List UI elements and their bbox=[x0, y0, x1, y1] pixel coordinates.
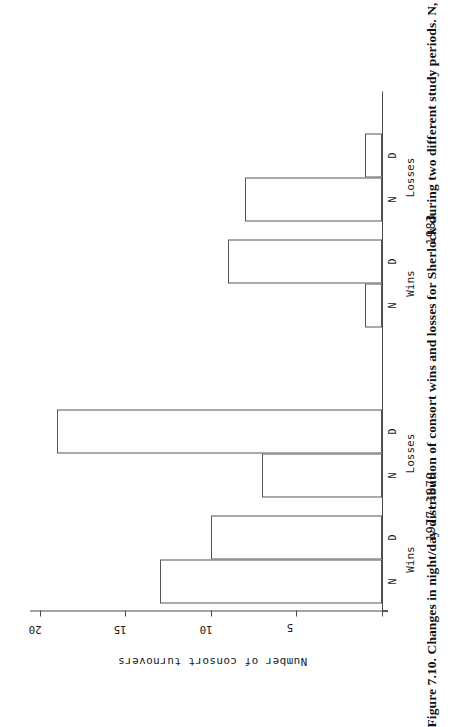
group-label-losses-1983: Losses bbox=[404, 157, 417, 197]
bar-1983-losses-N bbox=[245, 177, 382, 221]
bar-chart: 5 10 15 20 Number of consort turnovers N… bbox=[30, 89, 388, 699]
bar-1977-1979-losses-N bbox=[262, 453, 382, 497]
tick-mark-20 bbox=[40, 610, 41, 616]
tick-label-5: 5 bbox=[287, 621, 307, 634]
tick-mark-10 bbox=[211, 610, 212, 616]
tick-mark-5 bbox=[296, 610, 297, 616]
tick-label-10: 10 bbox=[200, 623, 224, 636]
bar-1983-wins-N bbox=[365, 283, 382, 327]
value-axis-line bbox=[30, 610, 382, 611]
figure-page: 5 10 15 20 Number of consort turnovers N… bbox=[0, 0, 474, 727]
group-label-wins-1983: Wins bbox=[404, 270, 417, 297]
bar-1977-1979-wins-D bbox=[211, 515, 382, 559]
tick-mark-15 bbox=[125, 610, 126, 616]
group-label-wins-1977: Wins bbox=[404, 546, 417, 573]
bar-1977-1979-losses-D bbox=[57, 409, 382, 453]
tick-label-15: 15 bbox=[114, 623, 138, 636]
bar-1983-wins-D bbox=[228, 239, 382, 283]
tick-mark-0 bbox=[382, 610, 383, 616]
category-label-n-4: N bbox=[387, 196, 398, 202]
category-label-n-2: N bbox=[387, 472, 398, 478]
figure-caption: Figure 7.10. Changes in night/day distri… bbox=[424, 0, 440, 727]
category-label-n-3: N bbox=[387, 302, 398, 308]
bar-1977-1979-wins-N bbox=[160, 559, 382, 603]
category-label-d-3: D bbox=[387, 258, 398, 264]
category-label-d-1: D bbox=[387, 534, 398, 540]
category-label-n-1: N bbox=[387, 578, 398, 584]
category-label-d-2: D bbox=[387, 428, 398, 434]
tick-label-20: 20 bbox=[29, 623, 53, 636]
y-axis-title: Number of consort turnovers bbox=[63, 655, 363, 668]
category-label-d-4: D bbox=[387, 152, 398, 158]
bar-1983-losses-D bbox=[365, 133, 382, 177]
group-label-losses-1977: Losses bbox=[404, 433, 417, 473]
category-axis-line bbox=[382, 91, 383, 611]
